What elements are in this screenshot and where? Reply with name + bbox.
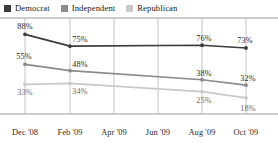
point-label-democrat-1: 75% bbox=[72, 35, 87, 44]
series-point-democrat-3 bbox=[244, 46, 248, 50]
legend-swatch-icon bbox=[4, 5, 11, 12]
series-point-democrat-2 bbox=[200, 43, 204, 47]
line-chart-figure: DemocratIndependentRepublican 88%75%76%7… bbox=[0, 0, 278, 143]
series-line-independent bbox=[25, 64, 246, 85]
point-label-independent-2: 38% bbox=[196, 69, 211, 78]
point-label-democrat-3: 73% bbox=[237, 36, 252, 45]
legend-swatch-icon bbox=[61, 5, 68, 12]
legend-swatch-icon bbox=[126, 5, 133, 12]
series-line-republican bbox=[25, 83, 246, 98]
x-axis-labels: Dec '08Feb '09Apr '09Jun '09Aug '09Oct '… bbox=[0, 125, 278, 143]
series-point-republican-0 bbox=[23, 82, 27, 86]
series-point-independent-0 bbox=[23, 62, 27, 66]
series-point-republican-3 bbox=[244, 96, 248, 100]
x-tick-label-3: Jun '09 bbox=[146, 127, 170, 138]
x-tick-label-4: Aug '09 bbox=[188, 127, 215, 138]
point-label-republican-1: 34% bbox=[72, 87, 87, 96]
x-tick-label-0: Dec '08 bbox=[12, 127, 38, 138]
series-point-independent-2 bbox=[200, 78, 204, 82]
plot-area bbox=[0, 17, 278, 125]
series-point-democrat-0 bbox=[23, 32, 27, 36]
series-line-democrat bbox=[25, 34, 246, 48]
point-label-independent-0: 55% bbox=[16, 52, 31, 61]
x-tick-label-1: Feb '09 bbox=[57, 127, 82, 138]
point-label-independent-1: 48% bbox=[72, 60, 87, 69]
point-label-republican-0: 33% bbox=[17, 88, 32, 97]
legend-item-independent: Independent bbox=[61, 3, 116, 13]
legend-item-democrat: Democrat bbox=[4, 3, 50, 13]
chart-legend: DemocratIndependentRepublican bbox=[4, 1, 274, 15]
series-point-independent-3 bbox=[244, 83, 248, 87]
legend-label: Independent bbox=[72, 3, 116, 13]
point-label-republican-2: 25% bbox=[196, 96, 211, 105]
series-point-republican-1 bbox=[68, 81, 72, 85]
legend-label: Republican bbox=[137, 3, 177, 13]
series-point-independent-1 bbox=[68, 69, 72, 73]
legend-item-republican: Republican bbox=[126, 3, 177, 13]
series-point-democrat-1 bbox=[68, 44, 72, 48]
point-label-independent-3: 32% bbox=[240, 74, 255, 83]
plot-svg bbox=[0, 17, 278, 125]
x-tick-label-5: Oct '09 bbox=[234, 127, 259, 138]
x-tick-label-2: Apr '09 bbox=[101, 127, 127, 138]
point-label-republican-3: 18% bbox=[240, 104, 255, 113]
point-label-democrat-0: 88% bbox=[17, 22, 32, 31]
legend-label: Democrat bbox=[15, 3, 50, 13]
series-point-republican-2 bbox=[200, 90, 204, 94]
point-label-democrat-2: 76% bbox=[196, 34, 211, 43]
